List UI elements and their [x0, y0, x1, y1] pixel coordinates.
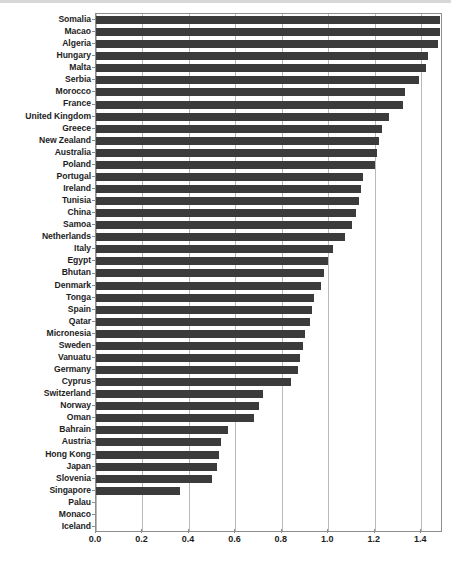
bar-row	[96, 74, 443, 86]
bar-row	[96, 207, 443, 219]
bar-row	[96, 280, 443, 292]
bar-row	[96, 509, 443, 521]
bar-new-zealand	[96, 137, 379, 145]
plot-area	[95, 13, 442, 532]
y-label-cyprus: Cyprus	[0, 375, 91, 387]
bar-row	[96, 461, 443, 473]
x-label-0.0: 0.0	[89, 534, 102, 544]
bar-row	[96, 62, 443, 74]
x-tick	[327, 529, 328, 533]
y-label-monaco: Monaco	[0, 508, 91, 520]
y-label-tunisia: Tunisia	[0, 194, 91, 206]
y-label-malta: Malta	[0, 61, 91, 73]
bar-row	[96, 147, 443, 159]
y-label-singapore: Singapore	[0, 484, 91, 496]
y-label-greece: Greece	[0, 122, 91, 134]
bar-row	[96, 316, 443, 328]
y-label-iceland: Iceland	[0, 520, 91, 532]
horizontal-bar-chart: SomaliaMacaoAlgeriaHungaryMaltaSerbiaMor…	[0, 0, 451, 582]
y-label-algeria: Algeria	[0, 37, 91, 49]
bar-row	[96, 243, 443, 255]
y-label-morocco: Morocco	[0, 85, 91, 97]
x-tick	[234, 529, 235, 533]
bar-switzerland	[96, 390, 263, 398]
y-label-hungary: Hungary	[0, 49, 91, 61]
x-tick	[188, 529, 189, 533]
x-tick	[374, 529, 375, 533]
y-label-sweden: Sweden	[0, 339, 91, 351]
bar-row	[96, 376, 443, 388]
y-label-portugal: Portugal	[0, 170, 91, 182]
y-label-netherlands: Netherlands	[0, 230, 91, 242]
y-label-italy: Italy	[0, 242, 91, 254]
bar-greece	[96, 125, 382, 133]
bar-serbia	[96, 76, 419, 84]
y-label-switzerland: Switzerland	[0, 387, 91, 399]
y-axis-category-labels: SomaliaMacaoAlgeriaHungaryMaltaSerbiaMor…	[0, 13, 91, 532]
y-label-egypt: Egypt	[0, 254, 91, 266]
bar-samoa	[96, 221, 352, 229]
bar-hong-kong	[96, 451, 219, 459]
bar-row	[96, 38, 443, 50]
bar-morocco	[96, 88, 405, 96]
y-label-china: China	[0, 206, 91, 218]
bar-norway	[96, 402, 259, 410]
bar-tunisia	[96, 197, 359, 205]
bar-denmark	[96, 282, 321, 290]
y-label-oman: Oman	[0, 411, 91, 423]
bar-row	[96, 123, 443, 135]
bar-row	[96, 473, 443, 485]
x-label-1.0: 1.0	[321, 534, 334, 544]
y-label-qatar: Qatar	[0, 315, 91, 327]
bar-row	[96, 267, 443, 279]
bar-france	[96, 101, 403, 109]
y-label-bhutan: Bhutan	[0, 266, 91, 278]
bar-hungary	[96, 52, 428, 60]
y-label-norway: Norway	[0, 399, 91, 411]
bar-poland	[96, 161, 375, 169]
x-tick	[420, 529, 421, 533]
x-label-1.4: 1.4	[414, 534, 427, 544]
y-label-france: France	[0, 97, 91, 109]
x-label-1.2: 1.2	[368, 534, 381, 544]
bar-micronesia	[96, 330, 305, 338]
x-axis-tick-labels: 0.00.20.40.60.81.01.21.4	[0, 534, 451, 554]
bar-portugal	[96, 173, 363, 181]
y-label-australia: Australia	[0, 146, 91, 158]
y-label-tonga: Tonga	[0, 291, 91, 303]
bar-cyprus	[96, 378, 291, 386]
y-label-japan: Japan	[0, 460, 91, 472]
bar-bhutan	[96, 269, 324, 277]
bar-row	[96, 292, 443, 304]
y-label-new-zealand: New Zealand	[0, 134, 91, 146]
bar-row	[96, 50, 443, 62]
y-label-vanuatu: Vanuatu	[0, 351, 91, 363]
bar-row	[96, 195, 443, 207]
bar-sweden	[96, 342, 303, 350]
bar-row	[96, 497, 443, 509]
bar-malta	[96, 64, 426, 72]
bar-row	[96, 400, 443, 412]
x-label-0.4: 0.4	[182, 534, 195, 544]
bar-vanuatu	[96, 354, 300, 362]
bar-row	[96, 352, 443, 364]
y-label-ireland: Ireland	[0, 182, 91, 194]
y-label-germany: Germany	[0, 363, 91, 375]
y-label-slovenia: Slovenia	[0, 472, 91, 484]
bar-row	[96, 231, 443, 243]
bar-row	[96, 14, 443, 26]
bar-macao	[96, 28, 440, 36]
y-label-austria: Austria	[0, 435, 91, 447]
bar-germany	[96, 366, 298, 374]
bar-row	[96, 255, 443, 267]
x-tick	[95, 529, 96, 533]
bar-japan	[96, 463, 217, 471]
bar-row	[96, 26, 443, 38]
y-label-somalia: Somalia	[0, 13, 91, 25]
y-label-spain: Spain	[0, 303, 91, 315]
y-label-serbia: Serbia	[0, 73, 91, 85]
bar-austria	[96, 438, 221, 446]
bar-row	[96, 412, 443, 424]
bar-row	[96, 135, 443, 147]
bar-spain	[96, 306, 312, 314]
